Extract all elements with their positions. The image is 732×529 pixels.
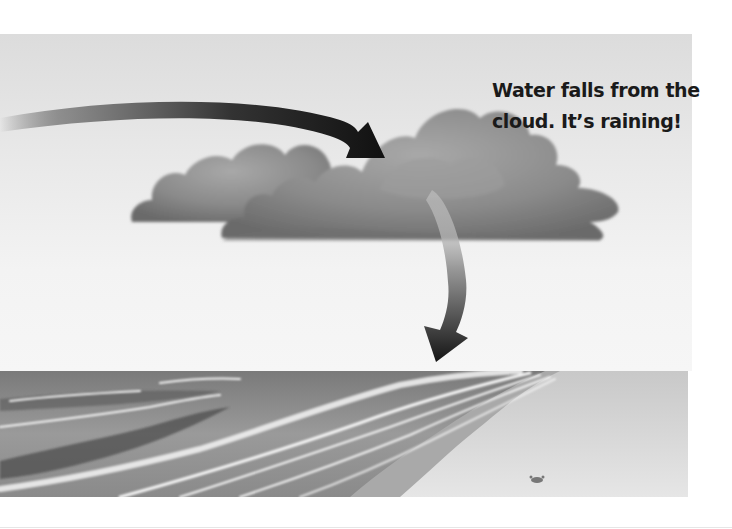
arrow-into-cloud-icon [0,102,385,158]
caption-line-2: cloud. It’s raining! [492,106,702,137]
caption-line-1: Water falls from the [492,75,702,106]
divider [0,527,732,528]
rain-streaks [142,222,598,358]
ocean-beach-panel [0,371,688,497]
ocean-waves [0,371,688,497]
caption-text: Water falls from the cloud. It’s raining… [492,75,702,137]
